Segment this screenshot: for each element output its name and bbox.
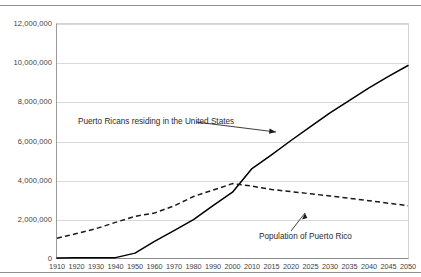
annotation-label-puerto-ricans-in-us: Puerto Ricans residing in the United Sta… (78, 117, 234, 127)
annotation-arrow-pr (291, 213, 307, 231)
chart-figure: 12,000,00010,000,0008,000,0006,000,0004,… (0, 0, 421, 277)
data-series-group (0, 0, 421, 277)
annotation-label-population-of-puerto-rico: Population of Puerto Rico (259, 232, 352, 242)
line-series-puerto-ricans-in-us (57, 66, 408, 258)
